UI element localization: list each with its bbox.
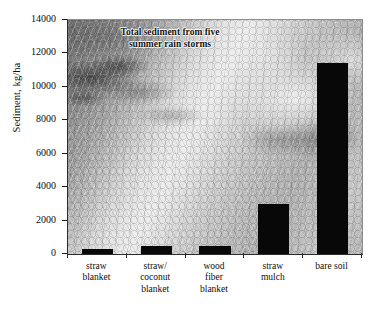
y-tick-label: 12000 [31,47,56,57]
x-axis-label-wood-fiber-blanket: woodfiberblanket [185,261,244,295]
x-axis-label-line: fiber [185,272,244,283]
x-axis-label-line: blanket [185,284,244,295]
y-tick-label: 2000 [36,215,56,225]
x-axis-label-line: straw [67,261,126,272]
y-tick-label: 14000 [31,14,56,24]
x-axis-label-line: bare soil [302,261,361,272]
x-tick-mark [361,253,362,258]
x-tick-mark [302,253,303,258]
x-axis-label-line: straw [243,261,302,272]
x-tick-mark [185,253,186,258]
x-axis-label-line: wood [185,261,244,272]
x-tick-mark [67,253,68,258]
y-tick-label: 8000 [36,114,56,124]
sediment-bar-chart-figure: Sediment, kg/ha 020004000600080001000012… [0,0,369,311]
y-tick-label: 4000 [36,181,56,191]
bar-straw-mulch [258,204,289,254]
x-axis-label-straw-blanket: strawblanket [67,261,126,284]
x-tick-mark [126,253,127,258]
x-tick-mark [243,253,244,258]
x-axis-label-line: straw/ [126,261,185,272]
x-axis-labels: strawblanketstraw/coconutblanketwoodfibe… [67,261,361,309]
x-axis-label-line: blanket [126,284,185,295]
plot-area: Total sediment from five summer rain sto… [67,19,363,255]
x-axis-label-straw-coconut-blanket: straw/coconutblanket [126,261,185,295]
y-tick-label: 0 [51,248,56,258]
x-axis-label-bare-soil: bare soil [302,261,361,272]
y-tick-label: 6000 [36,148,56,158]
bar-bare-soil [317,63,348,254]
x-axis-label-line: coconut [126,272,185,283]
x-axis-label-line: mulch [243,272,302,283]
x-axis-ticks [67,253,363,259]
y-tick-label: 10000 [31,81,56,91]
x-axis-label-straw-mulch: strawmulch [243,261,302,284]
x-axis-label-line: blanket [67,272,126,283]
y-axis-ticks: 02000400060008000100001200014000 [0,0,64,311]
